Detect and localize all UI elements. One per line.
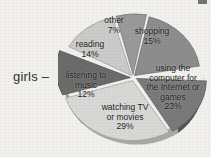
pie-chart: other 7% shopping 15% using the computer…	[58, 2, 208, 154]
slice-label-listening-music: listening to music 12%	[59, 71, 113, 100]
slice-label-shopping: shopping 15%	[126, 27, 178, 46]
scan-corner-mark	[198, 0, 207, 4]
row-label-girls: girls –	[13, 69, 49, 84]
slice-label-reading: reading 14%	[67, 40, 113, 59]
slice-label-watching-tv: watching TV or movies 29%	[94, 103, 156, 132]
